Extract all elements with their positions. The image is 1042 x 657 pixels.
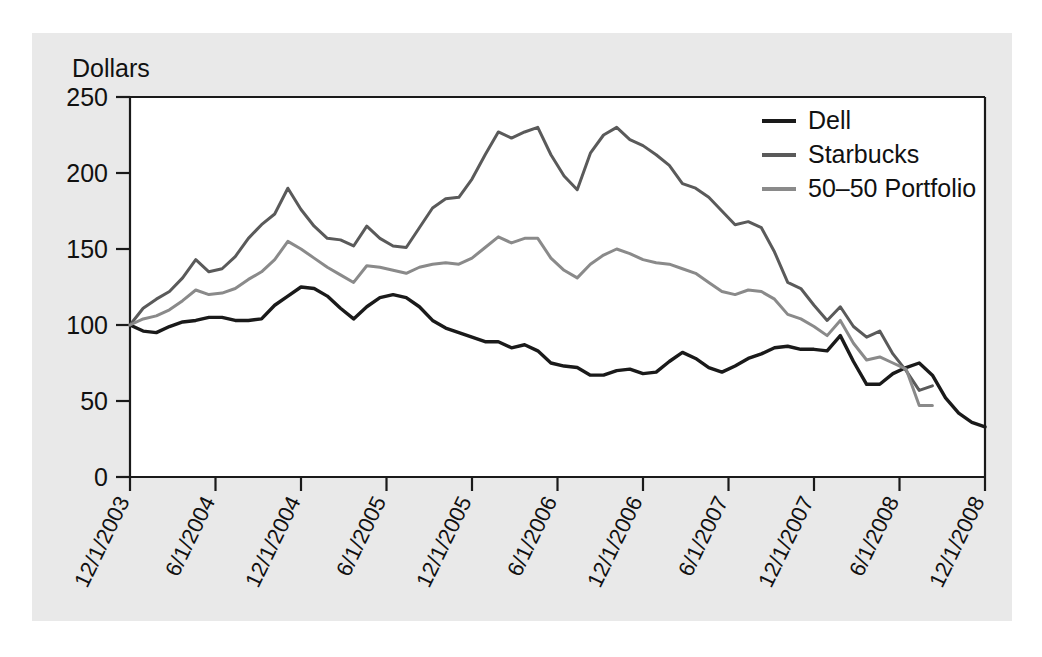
y-axis-ticks: 050100150200250	[66, 83, 130, 491]
y-tick-label: 100	[66, 311, 108, 339]
x-tick-label: 6/1/2008	[844, 492, 904, 580]
x-tick-label: 12/1/2005	[411, 492, 476, 591]
y-tick-label: 50	[80, 387, 108, 415]
legend-label-50-50-portfolio: 50–50 Portfolio	[808, 174, 976, 202]
y-tick-label: 150	[66, 235, 108, 263]
y-tick-label: 250	[66, 83, 108, 111]
x-tick-label: 12/1/2008	[924, 492, 989, 591]
x-axis-ticks: 12/1/20036/1/200412/1/20046/1/200512/1/2…	[69, 477, 989, 591]
y-tick-label: 0	[94, 463, 108, 491]
y-tick-label: 200	[66, 159, 108, 187]
x-tick-label: 6/1/2006	[502, 492, 562, 580]
figure-container: 050100150200250 12/1/20036/1/200412/1/20…	[0, 0, 1042, 657]
x-tick-label: 6/1/2004	[160, 492, 220, 580]
y-axis-title: Dollars	[72, 54, 150, 82]
x-tick-label: 12/1/2007	[753, 492, 818, 591]
legend-label-dell: Dell	[808, 106, 851, 134]
x-tick-label: 12/1/2003	[69, 492, 134, 591]
line-chart: 050100150200250 12/1/20036/1/200412/1/20…	[0, 0, 1042, 657]
x-tick-label: 6/1/2007	[673, 492, 733, 580]
x-tick-label: 12/1/2004	[240, 492, 305, 591]
x-tick-label: 6/1/2005	[331, 492, 391, 580]
x-tick-label: 12/1/2006	[582, 492, 647, 591]
legend-label-starbucks: Starbucks	[808, 140, 919, 168]
